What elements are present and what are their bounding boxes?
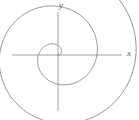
spiral-curve <box>0 0 136 120</box>
figure-canvas <box>0 0 139 120</box>
x-axis-label: x <box>127 49 131 58</box>
y-axis-label: y <box>59 1 63 10</box>
spiral-figure: y x <box>0 0 139 120</box>
